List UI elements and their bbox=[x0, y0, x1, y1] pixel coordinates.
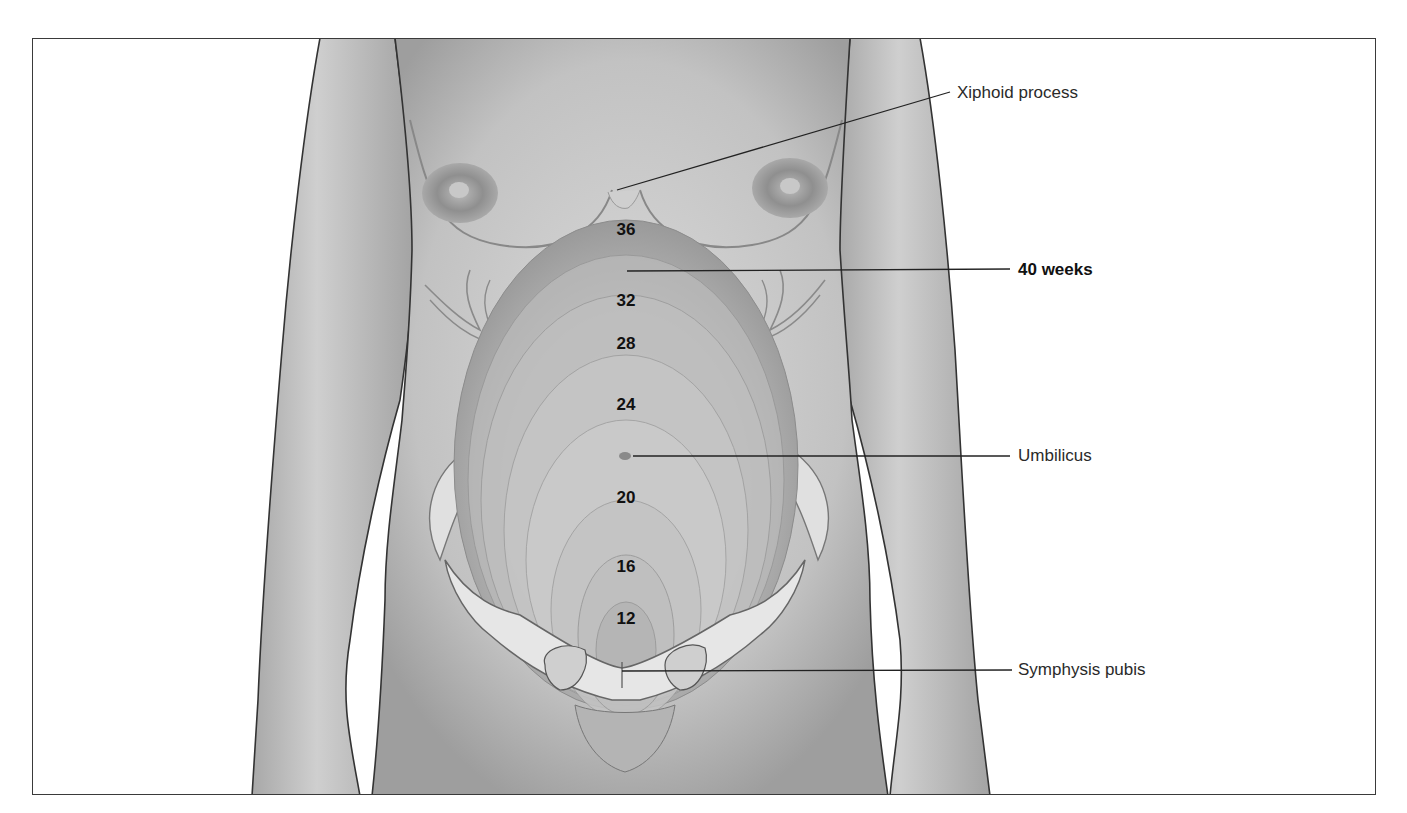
anatomy-illustration bbox=[0, 0, 1407, 813]
umbilicus-label: Umbilicus bbox=[1018, 447, 1092, 464]
xiphoid-process-label: Xiphoid process bbox=[957, 84, 1078, 101]
forty-weeks-label: 40 weeks bbox=[1018, 261, 1093, 278]
umbilicus bbox=[619, 452, 631, 460]
week-label-16: 16 bbox=[617, 558, 636, 575]
week-label-12: 12 bbox=[617, 610, 636, 627]
week-label-24: 24 bbox=[617, 396, 636, 413]
week-label-36: 36 bbox=[617, 221, 636, 238]
week-label-20: 20 bbox=[617, 489, 636, 506]
week-label-32: 32 bbox=[617, 292, 636, 309]
symphysis-pubis-label: Symphysis pubis bbox=[1018, 661, 1146, 678]
week-label-28: 28 bbox=[617, 335, 636, 352]
